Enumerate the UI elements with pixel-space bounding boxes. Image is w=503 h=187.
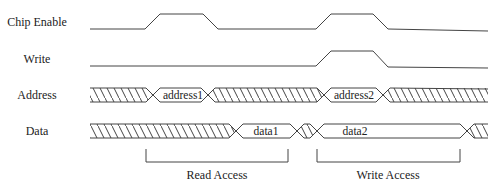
waveform-chip-enable (90, 14, 488, 31)
read-access-bracket: Read Access (146, 149, 288, 182)
address1-value: address1 (163, 89, 203, 101)
write-access-label: Write Access (356, 168, 419, 182)
write-access-bracket: Write Access (317, 149, 460, 182)
waveform-write (90, 51, 488, 68)
waveform-address: address1 address2 (90, 88, 488, 102)
data1-value: data1 (254, 125, 279, 137)
data2-value: data2 (343, 125, 368, 137)
read-access-label: Read Access (187, 168, 248, 182)
timing-diagram: address1 address2 data1 data2 Read Acces… (0, 0, 503, 187)
address2-value: address2 (334, 89, 374, 101)
waveform-data: data1 data2 (90, 124, 488, 138)
